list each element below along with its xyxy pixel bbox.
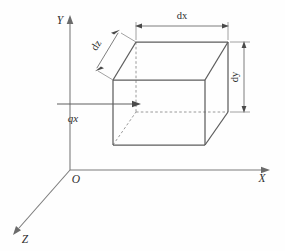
box-hidden-edges [113,42,228,145]
dz-extension-far [121,33,136,42]
y-axis-label: Y [57,14,65,26]
x-axis [70,167,270,174]
z-axis-label: Z [22,233,29,245]
axes-group: Y X Z O [13,14,270,245]
z-axis [13,170,70,235]
box-visible-edges [113,42,228,145]
dimension-dx: dx [135,10,229,40]
edge-depth-top-left [113,42,136,80]
dz-arrowhead-near [95,66,104,71]
control-volume-box [113,42,228,145]
dz-label: dz [89,38,104,53]
edge-depth-bottom-right [205,112,228,145]
edge-depth-top-right [205,42,228,80]
x-axis-label: X [257,172,266,184]
qx-arrowhead [132,101,141,108]
hidden-edge-bottom-left-depth [113,112,136,145]
dy-label: dy [229,71,240,82]
dz-extension-near [98,71,113,80]
flux-arrow-qx: qx [57,101,141,124]
y-axis-arrowhead [67,15,74,24]
qx-label: qx [68,112,79,124]
z-axis-line [19,170,70,228]
dz-dimension-line [97,33,118,68]
dz-arrowhead-far [111,30,120,35]
y-axis [67,15,74,170]
dx-label: dx [177,10,188,21]
coordinate-system-diagram: Y X Z O [0,0,285,251]
dimension-dy: dy [229,41,250,113]
origin-label: O [72,173,81,185]
figure-container: Y X Z O [0,0,285,251]
